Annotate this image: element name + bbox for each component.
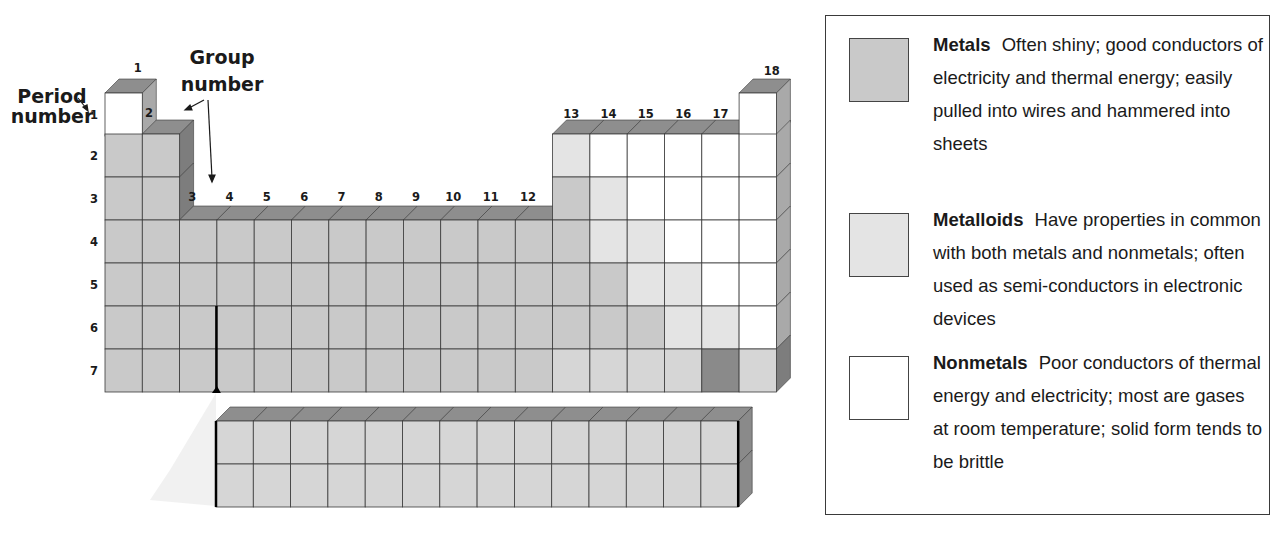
inner-transition-cell-r2-c6 [403,464,440,507]
element-cell-p3-g2-metal [142,177,179,220]
element-cell-p5-g10-metal [441,263,478,306]
element-cell-p5-g2-metal [142,263,179,306]
element-cell-p5-g8-metal [366,263,403,306]
inner-transition-cell-r1-c8 [477,421,514,464]
group-number-1: 1 [134,61,142,75]
inner-transition-cell-r1-c6 [403,421,440,464]
arrow-icon [185,100,204,110]
element-cell-p4-g6-metal [292,220,329,263]
element-cell-p5-g14-metal [590,263,627,306]
element-cell-p2-g16-nonmetal [665,134,702,177]
element-cell-p7-g6-metal [292,349,329,392]
inner-transition-cell-r2-c10 [552,464,589,507]
element-cell-p4-g2-metal [142,220,179,263]
element-cell-p4-g8-metal [366,220,403,263]
inner-transition-cell-r1-c3 [291,421,328,464]
element-cell-p5-g9-metal [403,263,440,306]
element-cell-p6-g11-metal [478,306,515,349]
inner-transition-cell-r2-c11 [589,464,626,507]
element-cell-p4-g18-nonmetal [739,220,776,263]
period-number-2: 2 [90,149,98,163]
legend-title: Metals [933,34,991,55]
period-number-label-line1: Period [17,85,86,107]
element-cell-p7-g10-metal [441,349,478,392]
element-cell-p6-g6-metal [292,306,329,349]
element-cell-p6-g4-metal [217,306,254,349]
element-cell-p7-g13-metal_light [553,349,590,392]
inner-transition-cell-r2-c8 [477,464,514,507]
element-cell-p7-g11-metal [478,349,515,392]
element-cell-p5-g4-metal [217,263,254,306]
element-cell-p6-g10-metal [441,306,478,349]
element-cell-p6-g5-metal [254,306,291,349]
metals-swatch [849,38,909,102]
group-number-12: 12 [520,190,536,204]
group-number-3: 3 [188,190,196,204]
inner-transition-cell-r2-c12 [626,464,663,507]
element-cell-p7-g3-metal [180,349,217,392]
legend-title: Nonmetals [933,352,1028,373]
element-cell-p1-g18-nonmetal [739,93,776,136]
element-cell-p5-g17-nonmetal [702,263,739,306]
element-cell-p6-g17-metalloid [702,306,739,349]
element-cell-p4-g7-metal [329,220,366,263]
element-cell-p2-g2-metal [142,134,179,177]
element-cell-p5-g3-metal [180,263,217,306]
element-cell-p6-g8-metal [366,306,403,349]
element-cell-p6-g7-metal [329,306,366,349]
element-cell-p7-g18-metal_light [739,349,776,392]
element-cell-p6-g15-metal [627,306,664,349]
inner-transition-block [216,407,752,507]
element-cell-p5-g18-nonmetal [739,263,776,306]
element-cell-p3-g1-metal [105,177,142,220]
group-number-6: 6 [300,190,308,204]
group-number-7: 7 [337,190,345,204]
element-cell-p6-g14-metal [590,306,627,349]
inner-transition-cell-r2-c2 [253,464,290,507]
metalloids-swatch [849,213,909,277]
element-cell-p5-g13-metal [553,263,590,306]
group-number-label-line2: number [181,73,264,95]
element-cell-p7-g8-metal [366,349,403,392]
element-cell-p7-g7-metal [329,349,366,392]
inner-transition-cell-r2-c3 [291,464,328,507]
legend-text: Metalloids Have properties in common wit… [933,203,1263,335]
inner-transition-cell-r1-c12 [626,421,663,464]
inner-transition-cell-r1-c2 [253,421,290,464]
inner-transition-cell-r2-c13 [664,464,701,507]
period-number-6: 6 [90,321,98,335]
element-cell-p2-g15-nonmetal [627,134,664,177]
inner-transition-cell-r1-c14 [701,421,738,464]
group-number-17: 17 [712,107,728,121]
inner-transition-cell-r1-c5 [365,421,402,464]
element-cell-p6-g13-metal [553,306,590,349]
element-cell-p7-g17-unknown [702,349,739,392]
group-number-18: 18 [764,64,780,78]
element-cell-p7-g5-metal [254,349,291,392]
element-cell-p6-g16-metalloid [665,306,702,349]
group-number-14: 14 [601,107,617,121]
group-number-16: 16 [675,107,691,121]
period-number-7: 7 [90,364,98,378]
element-cell-p2-g17-nonmetal [702,134,739,177]
inner-transition-cell-r1-c10 [552,421,589,464]
inner-transition-cell-r2-c5 [365,464,402,507]
element-cell-p4-g13-metal [553,220,590,263]
arrow-icon [208,100,215,182]
group-number-11: 11 [483,190,499,204]
element-cell-p2-g18-nonmetal [739,134,776,177]
element-cell-p5-g6-metal [292,263,329,306]
element-cell-p6-g3-metal [180,306,217,349]
group-number-4: 4 [226,190,234,204]
element-cell-p3-g15-nonmetal [627,177,664,220]
element-cell-p4-g15-metalloid [627,220,664,263]
element-cell-p3-g14-metalloid [590,177,627,220]
inner-transition-cell-r1-c1 [216,421,253,464]
element-cells [105,93,776,393]
element-cell-p2-g13-metalloid [553,134,590,177]
element-cell-p5-g16-metalloid [665,263,702,306]
inner-transition-cell-r1-c7 [440,421,477,464]
element-cell-p7-g1-metal [105,349,142,392]
element-cell-p4-g4-metal [217,220,254,263]
element-cell-p1-g1-nonmetal [105,93,142,136]
